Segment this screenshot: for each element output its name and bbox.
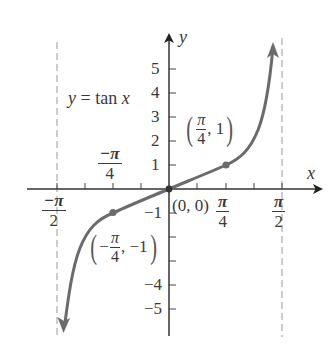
- equation-rest: = tan: [76, 88, 122, 108]
- point-y-value: , 1: [207, 119, 224, 139]
- right-paren: ): [227, 110, 234, 148]
- x-axis-label: x: [307, 164, 315, 182]
- point-origin: [166, 186, 173, 193]
- left-paren: (: [186, 110, 193, 148]
- y-tick-1: 1: [151, 156, 160, 173]
- y-tick-neg1: −1: [144, 204, 162, 221]
- point-pi-over-4: [222, 161, 229, 168]
- frac-numerator: π: [110, 230, 120, 248]
- frac-numerator: −π: [42, 192, 66, 211]
- point-x-fraction: π 4: [196, 112, 206, 147]
- y-tick-2: 2: [151, 132, 160, 149]
- point-y-value: , −1: [121, 237, 148, 257]
- label-neg-pi-over-4: −π 4: [98, 145, 122, 182]
- equation-y: y: [68, 88, 76, 108]
- plot-canvas: [0, 0, 328, 361]
- y-tick-neg5: −5: [144, 300, 162, 317]
- tangent-graph: y x y = tan x 5 4 3 2 1 −1 −4 −5 −π 4 −π…: [0, 0, 328, 361]
- y-axis-label: y: [179, 28, 187, 46]
- equation-label: y = tan x: [68, 89, 130, 107]
- y-tick-5: 5: [151, 60, 160, 77]
- label-pi-over-4: π 4: [216, 193, 229, 230]
- frac-numerator: π: [196, 112, 206, 130]
- label-pi-over-2: π 2: [272, 193, 285, 230]
- frac-denominator: 4: [106, 164, 115, 182]
- label-neg-pi-over-2: −π 2: [42, 192, 66, 229]
- frac-denominator: 2: [274, 212, 283, 230]
- point-x-sign: −: [99, 237, 109, 257]
- frac-denominator: 2: [50, 211, 59, 229]
- point-neg-pi-over-4: [109, 209, 116, 216]
- right-paren: ): [150, 228, 157, 266]
- frac-denominator: 4: [218, 212, 227, 230]
- frac-denominator: 4: [111, 248, 119, 265]
- frac-denominator: 4: [197, 130, 205, 147]
- point-x-fraction: π 4: [110, 230, 120, 265]
- frac-numerator: −π: [98, 145, 122, 164]
- origin-label: (0, 0): [172, 197, 209, 214]
- point-label-neg-pi-over-4: ( − π 4 , −1 ): [88, 228, 159, 266]
- equation-x: x: [122, 88, 130, 108]
- y-tick-4: 4: [151, 84, 160, 101]
- y-tick-neg4: −4: [144, 276, 162, 293]
- y-tick-3: 3: [151, 108, 160, 125]
- curve-arrow-down-icon: [58, 317, 71, 333]
- frac-numerator: π: [272, 193, 285, 212]
- frac-numerator: π: [216, 193, 229, 212]
- point-label-pi-over-4: ( π 4 , 1 ): [184, 110, 236, 148]
- left-paren: (: [90, 228, 97, 266]
